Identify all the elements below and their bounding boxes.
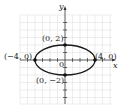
point-label-left: (−4, 0) [4, 53, 32, 61]
point-label-top: (0, 2) [42, 35, 64, 43]
y-axis-label: y [59, 3, 64, 11]
origin-label: 0 [59, 61, 64, 69]
point-label-bottom: (0, −2) [36, 77, 64, 85]
point-left [33, 58, 37, 62]
point-top [63, 43, 67, 47]
point-label-right: (4, 0) [95, 53, 117, 61]
x-axis-label: x [113, 62, 118, 70]
